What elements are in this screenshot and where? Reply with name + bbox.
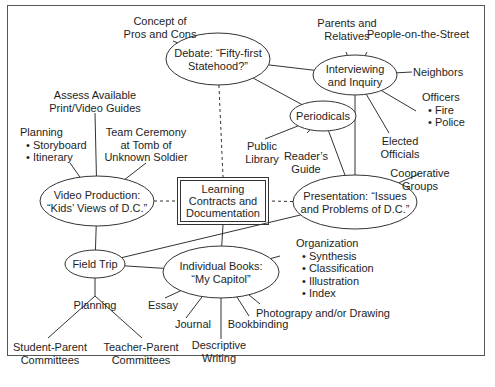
label-assess: Assess AvailablePrint/Video Guides xyxy=(49,89,141,114)
label-line: Library xyxy=(245,153,279,166)
label-pros-cons: Concept ofPros and Cons xyxy=(124,15,197,40)
label-planning-trip: Planning xyxy=(74,299,117,312)
label-elected: ElectedOfficials xyxy=(381,135,420,160)
label-descriptive: DescriptiveWriting xyxy=(192,339,246,364)
label-line: at Tomb of xyxy=(104,139,187,152)
node-label-line: Statehood?” xyxy=(174,59,261,72)
label-line: Elected xyxy=(381,135,420,148)
hub-line: Contracts and xyxy=(189,195,257,207)
edge-video-to-field-trip xyxy=(95,226,96,250)
bullet-text: Police xyxy=(435,116,465,128)
bullet-text: Itinerary xyxy=(33,151,73,163)
bullet-icon: • xyxy=(26,139,33,151)
label-line: Teacher-Parent xyxy=(103,341,178,354)
node-label-line: “My Capitol” xyxy=(179,272,262,285)
edge-interviewing-to-people-street xyxy=(365,52,367,56)
edge-video-to-assess xyxy=(95,113,96,176)
bullet-item: • Classification xyxy=(296,262,374,275)
label-line: Cooperative xyxy=(390,167,449,180)
node-label-line: and Problems of D.C.” xyxy=(301,202,410,215)
label-public-library: PublicLibrary xyxy=(245,140,279,165)
node-label-line: Video Production: xyxy=(47,189,147,202)
hub-learning-contracts: Learning Contracts and Documentation xyxy=(177,177,269,225)
label-bookbinding: Bookbinding xyxy=(228,318,289,331)
label-line: Bookbinding xyxy=(228,318,289,331)
edge-periodicals-to-readers-guide xyxy=(307,130,310,133)
edge-interviewing-to-neighbors xyxy=(397,72,412,73)
label-line: Descriptive xyxy=(192,339,246,352)
label-student-parent: Student-ParentCommittees xyxy=(13,341,87,366)
label-teacher-parent: Teacher-ParentCommittees xyxy=(103,341,178,366)
bullet-icon: • xyxy=(302,250,309,262)
label-people-street: People-on-the-Street xyxy=(367,28,469,41)
label-line: Student-Parent xyxy=(13,341,87,354)
bullet-item: • Itinerary xyxy=(20,151,87,164)
edge-debate-to-hub xyxy=(219,85,223,177)
node-debate: Debate: “Fifty-firstStatehood?” xyxy=(174,47,261,72)
bullet-item: • Police xyxy=(422,116,465,129)
bullet-icon: • xyxy=(26,151,33,163)
bullet-icon: • xyxy=(302,287,309,299)
label-line: Print/Video Guides xyxy=(49,102,141,115)
hub-line: Documentation xyxy=(186,207,260,219)
bullet-item: • Index xyxy=(296,287,374,300)
edge-books-to-bookbinding xyxy=(237,297,249,316)
node-label-line: Field Trip xyxy=(72,258,117,271)
node-label-line: “Kids’ Views of D.C.” xyxy=(47,201,147,214)
edge-periodicals-to-presentation xyxy=(329,131,346,176)
bullet-text: Classification xyxy=(309,262,374,274)
edge-debate-to-interviewing xyxy=(269,65,315,70)
edge-periodicals-to-public-library xyxy=(265,126,298,139)
node-video: Video Production:“Kids’ Views of D.C.” xyxy=(47,189,147,214)
node-interviewing: Interviewingand Inquiry xyxy=(326,63,385,88)
edge-debate-to-pros-cons xyxy=(173,41,177,43)
edge-books-to-essay xyxy=(165,291,181,298)
label-line: Concept of xyxy=(124,15,197,28)
label-journal: Journal xyxy=(175,318,211,331)
edge-interviewing-to-elected xyxy=(366,94,389,133)
edge-field-trip-to-books xyxy=(125,266,164,268)
label-title: Organization xyxy=(296,237,374,250)
label-line: Writing xyxy=(192,352,246,365)
node-periodicals: Periodicals xyxy=(296,110,350,123)
label-readers-guide: Reader’sGuide xyxy=(284,150,328,175)
node-label-line: and Inquiry xyxy=(326,75,385,88)
edge-interviewing-to-officers xyxy=(381,91,416,111)
edge-books-to-journal xyxy=(186,297,202,318)
bullet-text: Illustration xyxy=(309,275,359,287)
bullet-item: • Synthesis xyxy=(296,250,374,263)
label-line: Public xyxy=(245,140,279,153)
edge-presentation-to-hub xyxy=(269,201,293,202)
label-line: Unknown Soldier xyxy=(104,151,187,164)
hub-text: Learning Contracts and Documentation xyxy=(180,180,266,222)
hub-line: Learning xyxy=(202,183,245,195)
label-line: Reader’s xyxy=(284,150,328,163)
label-neighbors: Neighbors xyxy=(413,66,463,79)
bullet-item: • Storyboard xyxy=(20,139,87,152)
bullet-icon: • xyxy=(428,116,435,128)
label-line: Guide xyxy=(284,163,328,176)
label-line: Pros and Cons xyxy=(124,28,197,41)
edge-books-to-photography xyxy=(249,295,260,304)
label-officers: Officers• Fire• Police xyxy=(422,91,465,129)
label-team-ceremony: Team Ceremonyat Tomb ofUnknown Soldier xyxy=(104,126,187,164)
edge-video-to-team-ceremony xyxy=(125,163,146,179)
bullet-icon: • xyxy=(302,262,309,274)
edge-debate-to-periodicals xyxy=(253,78,302,104)
edge-hub-to-books xyxy=(222,225,223,246)
label-line: Assess Available xyxy=(49,89,141,102)
node-field-trip: Field Trip xyxy=(72,258,117,271)
node-label-line: Debate: “Fifty-first xyxy=(174,47,261,60)
label-title: Officers xyxy=(422,91,465,104)
label-cooperative: CooperativeGroups xyxy=(390,167,449,192)
label-line: Committees xyxy=(103,354,178,367)
label-line: Neighbors xyxy=(413,66,463,79)
bullet-text: Fire xyxy=(435,104,454,116)
label-organization: Organization• Synthesis• Classification•… xyxy=(296,237,374,300)
edge-books-to-organization xyxy=(271,256,280,259)
label-title: Planning xyxy=(20,126,87,139)
node-presentation: Presentation: “Issuesand Problems of D.C… xyxy=(301,190,410,215)
node-label-line: Interviewing xyxy=(326,63,385,76)
label-line: Essay xyxy=(148,299,178,312)
bullet-icon: • xyxy=(302,275,309,287)
